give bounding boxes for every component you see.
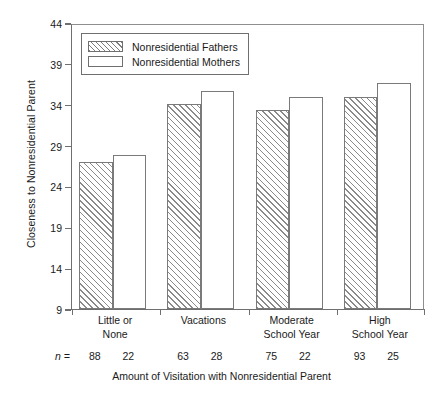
y-tick-label: 19: [50, 222, 65, 234]
bar-mothers-3: [377, 83, 411, 309]
category-label-line: School Year: [248, 328, 336, 342]
x-axis-title: Amount of Visitation with Nonresidential…: [0, 370, 443, 382]
x-axis-category-labels: Little orNoneVacationsModerateSchool Yea…: [71, 314, 424, 346]
legend-label-fathers: Nonresidential Fathers: [132, 41, 238, 53]
bar-mothers-2: [289, 97, 323, 309]
category-label-line: Moderate: [248, 314, 336, 328]
bar-mothers-1: [201, 91, 235, 309]
n-value-mothers-3: 25: [380, 350, 406, 362]
n-value-mothers-1: 28: [204, 350, 230, 362]
y-tick-label: 29: [50, 141, 65, 153]
y-tick-44: 44: [50, 18, 71, 30]
category-label-line: Little or: [71, 314, 159, 328]
y-tick-29: 29: [50, 141, 71, 153]
legend-label-mothers: Nonresidential Mothers: [132, 56, 240, 68]
n-value-mothers-0: 22: [115, 350, 141, 362]
category-label-line: School Year: [336, 328, 424, 342]
y-tick-label: 34: [50, 100, 65, 112]
category-label-line: Vacations: [159, 314, 247, 328]
y-tick-19: 19: [50, 222, 71, 234]
category-label-0: Little orNone: [71, 314, 159, 341]
legend-swatch-mothers: [88, 56, 123, 67]
bar-fathers-1: [167, 104, 201, 309]
bar-fathers-0: [79, 162, 113, 309]
bar-fathers-3: [344, 97, 378, 309]
n-value-fathers-2: 75: [258, 350, 284, 362]
legend-item-mothers: Nonresidential Mothers: [88, 54, 240, 69]
y-axis-ticks: 914192429343944: [0, 0, 71, 394]
category-label-1: Vacations: [159, 314, 247, 328]
y-tick-label: 39: [50, 59, 65, 71]
n-equals-label: n =: [55, 350, 70, 362]
legend-swatch-fathers: [88, 41, 123, 52]
chart-figure: Closeness to Nonresidential Parent 91419…: [0, 0, 443, 394]
y-tick-label: 44: [50, 18, 65, 30]
sample-size-row: n = 8863759322282225: [0, 350, 443, 366]
plot-area: Nonresidential Fathers Nonresidential Mo…: [71, 24, 424, 310]
n-value-fathers-3: 93: [347, 350, 373, 362]
y-tick-24: 24: [50, 181, 71, 193]
n-value-fathers-0: 88: [82, 350, 108, 362]
y-tick-14: 14: [50, 263, 71, 275]
bar-fathers-2: [256, 110, 290, 309]
category-label-2: ModerateSchool Year: [248, 314, 336, 341]
y-tick-34: 34: [50, 100, 71, 112]
y-tick-label: 14: [50, 263, 65, 275]
category-label-line: High: [336, 314, 424, 328]
category-label-3: HighSchool Year: [336, 314, 424, 341]
bar-mothers-0: [113, 155, 147, 309]
y-tick-label: 24: [50, 181, 65, 193]
legend: Nonresidential Fathers Nonresidential Mo…: [81, 33, 249, 75]
category-label-line: None: [71, 328, 159, 342]
n-value-mothers-2: 22: [292, 350, 318, 362]
y-tick-label: 9: [56, 304, 65, 316]
n-value-fathers-1: 63: [170, 350, 196, 362]
y-tick-9: 9: [56, 304, 71, 316]
y-tick-39: 39: [50, 59, 71, 71]
legend-item-fathers: Nonresidential Fathers: [88, 39, 240, 54]
